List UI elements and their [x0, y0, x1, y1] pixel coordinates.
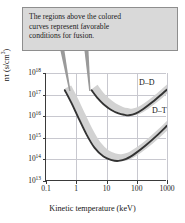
callout-line-3: conditions for fusion. — [29, 31, 172, 41]
callout-line-1: The regions above the colored — [29, 12, 172, 22]
callout-line-2: curves represent favorable — [29, 22, 172, 32]
fusion-lawson-criterion-figure: The regions above the colored curves rep… — [0, 0, 185, 223]
annotation-callout: The regions above the colored curves rep… — [22, 7, 178, 51]
